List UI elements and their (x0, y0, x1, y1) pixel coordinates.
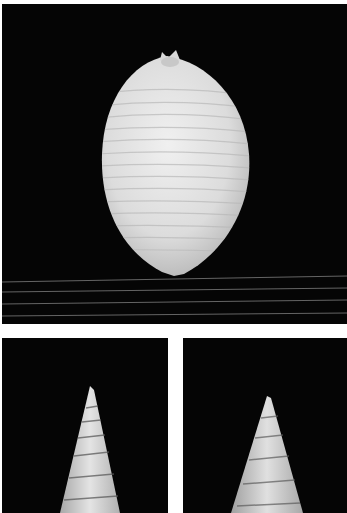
slender-spire-shell-image (2, 338, 168, 513)
ovate-shell-image (2, 4, 347, 324)
photo-panel-top (2, 4, 347, 324)
turreted-spire-shell-image (183, 338, 347, 513)
photo-panel-bottom-right (183, 338, 347, 513)
photo-panel-bottom-left (2, 338, 168, 513)
